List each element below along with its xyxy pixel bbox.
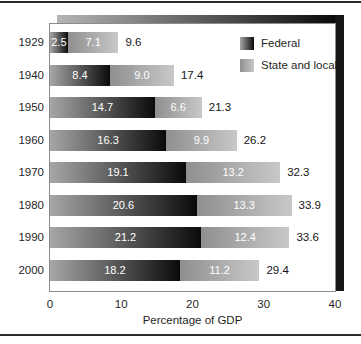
state-local-segment: 9.9 [166, 130, 237, 151]
year-label: 1990 [0, 227, 44, 248]
legend-label-state-local: State and local [261, 59, 337, 72]
total-label: 33.9 [299, 195, 321, 216]
federal-segment: 16.3 [50, 130, 166, 151]
state-local-segment: 13.3 [197, 195, 292, 216]
x-tick-label: 10 [115, 298, 128, 310]
legend-label-federal: Federal [261, 37, 300, 50]
state-local-segment: 11.2 [180, 260, 260, 281]
federal-segment: 18.2 [50, 260, 180, 281]
federal-value-label: 19.1 [107, 162, 128, 183]
state-local-segment: 6.6 [155, 97, 202, 118]
total-label: 29.4 [266, 260, 288, 281]
federal-value-label: 8.4 [72, 65, 87, 86]
legend: Federal State and local [240, 37, 337, 81]
total-label: 32.3 [287, 162, 309, 183]
state-local-segment: 13.2 [186, 162, 280, 183]
state-local-value-label: 13.3 [233, 195, 254, 216]
figure-top-rule [0, 1, 361, 3]
x-axis: 0 10 20 30 40 [50, 298, 335, 312]
bar-row: 1950 14.7 6.6 21.3 [0, 97, 361, 118]
legend-swatch-state-local-icon [240, 59, 254, 72]
bar-row: 1990 21.2 12.4 33.6 [0, 227, 361, 248]
year-label: 1940 [0, 65, 44, 86]
x-tick-label: 20 [186, 298, 199, 310]
federal-value-label: 21.2 [115, 227, 136, 248]
state-local-value-label: 9.0 [134, 65, 149, 86]
total-label: 21.3 [209, 97, 231, 118]
year-label: 1980 [0, 195, 44, 216]
year-label: 2000 [0, 260, 44, 281]
legend-swatch-federal-icon [240, 37, 254, 50]
state-local-value-label: 11.2 [209, 260, 230, 281]
legend-item-state-local: State and local [240, 59, 337, 72]
federal-value-label: 18.2 [104, 260, 125, 281]
federal-segment: 2.5 [50, 32, 68, 53]
bar-row: 1980 20.6 13.3 33.9 [0, 195, 361, 216]
total-label: 9.6 [125, 32, 141, 53]
state-local-value-label: 6.6 [171, 97, 186, 118]
legend-item-federal: Federal [240, 37, 337, 50]
year-label: 1950 [0, 97, 44, 118]
federal-value-label: 20.6 [113, 195, 134, 216]
year-label: 1960 [0, 130, 44, 151]
state-local-segment: 12.4 [201, 227, 289, 248]
state-local-value-label: 9.9 [194, 130, 209, 151]
bar-row: 1970 19.1 13.2 32.3 [0, 162, 361, 183]
state-local-segment: 9.0 [110, 65, 174, 86]
total-label: 33.6 [296, 227, 318, 248]
federal-segment: 20.6 [50, 195, 197, 216]
federal-segment: 14.7 [50, 97, 155, 118]
x-tick-label: 40 [329, 298, 342, 310]
total-label: 26.2 [244, 130, 266, 151]
x-tick-label: 0 [47, 298, 53, 310]
federal-value-label: 16.3 [97, 130, 118, 151]
federal-segment: 21.2 [50, 227, 201, 248]
bar-row: 1960 16.3 9.9 26.2 [0, 130, 361, 151]
figure-bottom-rule [0, 334, 361, 336]
state-local-value-label: 7.1 [85, 32, 100, 53]
federal-value-label: 2.5 [51, 32, 66, 53]
state-local-value-label: 12.4 [235, 227, 256, 248]
federal-segment: 19.1 [50, 162, 186, 183]
total-label: 17.4 [181, 65, 203, 86]
x-axis-title: Percentage of GDP [50, 314, 335, 326]
federal-segment: 8.4 [50, 65, 110, 86]
state-local-value-label: 13.2 [222, 162, 243, 183]
year-label: 1970 [0, 162, 44, 183]
state-local-segment: 7.1 [68, 32, 119, 53]
federal-value-label: 14.7 [92, 97, 113, 118]
bar-row: 2000 18.2 11.2 29.4 [0, 260, 361, 281]
year-label: 1929 [0, 32, 44, 53]
x-tick-label: 30 [257, 298, 270, 310]
